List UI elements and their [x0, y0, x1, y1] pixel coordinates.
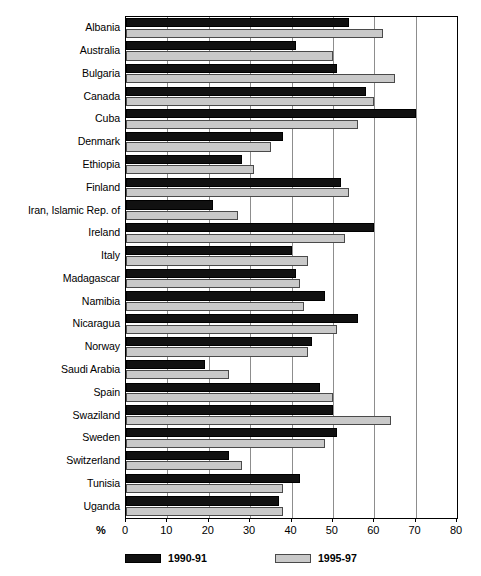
bar-1995-97	[126, 211, 238, 220]
bar-1990-91	[126, 360, 205, 369]
bar-row	[126, 85, 457, 108]
bar-row	[126, 176, 457, 199]
bar-row	[126, 404, 457, 427]
bar-row	[126, 268, 457, 291]
category-label-denmark: Denmark	[0, 135, 120, 147]
x-axis: 01020304050607080	[125, 518, 457, 538]
category-label-bulgaria: Bulgaria	[0, 67, 120, 79]
bar-1990-91	[126, 383, 320, 392]
category-label-ethiopia: Ethiopia	[0, 158, 120, 170]
bar-row	[126, 313, 457, 336]
legend-label-1995-97: 1995-97	[318, 552, 357, 564]
x-tick-label-10: 10	[160, 524, 172, 536]
bar-1995-97	[126, 188, 349, 197]
legend: 1990-91 1995-97	[115, 548, 445, 568]
category-label-italy: Italy	[0, 249, 120, 261]
bar-row	[126, 199, 457, 222]
x-tick-label-60: 60	[367, 524, 379, 536]
category-label-iran-islamic-rep-of: Iran, Islamic Rep. of	[0, 204, 120, 216]
bar-1995-97	[126, 29, 383, 38]
category-label-switzerland: Switzerland	[0, 454, 120, 466]
x-tick-label-20: 20	[202, 524, 214, 536]
x-tick-10	[166, 518, 167, 522]
bar-1990-91	[126, 178, 341, 187]
bar-1990-91	[126, 223, 374, 232]
bar-1995-97	[126, 256, 308, 265]
category-label-spain: Spain	[0, 386, 120, 398]
category-label-swaziland: Swaziland	[0, 409, 120, 421]
bar-1995-97	[126, 370, 229, 379]
bar-1990-91	[126, 314, 358, 323]
category-label-nicaragua: Nicaragua	[0, 317, 120, 329]
bar-row	[126, 381, 457, 404]
x-tick-0	[125, 518, 126, 522]
bar-1990-91	[126, 87, 366, 96]
legend-label-1990-91: 1990-91	[168, 552, 207, 564]
gray-swatch	[275, 554, 311, 563]
bar-row	[126, 359, 457, 382]
category-label-australia: Australia	[0, 44, 120, 56]
bar-1995-97	[126, 142, 271, 151]
bar-row	[126, 427, 457, 450]
bar-1990-91	[126, 109, 416, 118]
bar-1995-97	[126, 325, 337, 334]
bar-row	[126, 472, 457, 495]
bar-1990-91	[126, 291, 325, 300]
category-label-ireland: Ireland	[0, 226, 120, 238]
bar-1990-91	[126, 155, 242, 164]
bar-1990-91	[126, 496, 279, 505]
bar-1990-91	[126, 474, 300, 483]
bar-row	[126, 40, 457, 63]
bar-row	[126, 336, 457, 359]
bar-1990-91	[126, 41, 296, 50]
bar-1995-97	[126, 439, 325, 448]
x-tick-label-40: 40	[284, 524, 296, 536]
bar-1990-91	[126, 200, 213, 209]
category-label-tunisia: Tunisia	[0, 477, 120, 489]
bar-1995-97	[126, 507, 283, 516]
bar-1990-91	[126, 337, 312, 346]
x-tick-60	[373, 518, 374, 522]
bar-row	[126, 290, 457, 313]
category-label-finland: Finland	[0, 181, 120, 193]
bar-1990-91	[126, 451, 229, 460]
bar-row	[126, 17, 457, 40]
category-label-canada: Canada	[0, 90, 120, 102]
bar-1990-91	[126, 64, 337, 73]
black-swatch	[125, 554, 161, 563]
category-label-norway: Norway	[0, 340, 120, 352]
bar-1995-97	[126, 416, 391, 425]
bar-1995-97	[126, 165, 254, 174]
bar-1995-97	[126, 234, 345, 243]
x-tick-label-50: 50	[326, 524, 338, 536]
legend-item-1990-91: 1990-91	[125, 552, 207, 564]
bar-row	[126, 450, 457, 473]
bar-1995-97	[126, 393, 333, 402]
bar-1995-97	[126, 302, 304, 311]
x-tick-50	[332, 518, 333, 522]
category-label-uganda: Uganda	[0, 500, 120, 512]
bar-row	[126, 154, 457, 177]
bar-1995-97	[126, 120, 358, 129]
x-tick-70	[415, 518, 416, 522]
category-label-cuba: Cuba	[0, 112, 120, 124]
x-tick-40	[291, 518, 292, 522]
bar-1995-97	[126, 461, 242, 470]
legend-item-1995-97: 1995-97	[275, 552, 357, 564]
bar-1995-97	[126, 74, 395, 83]
bar-1995-97	[126, 347, 308, 356]
bar-rows	[126, 17, 457, 518]
bar-row	[126, 222, 457, 245]
bar-row	[126, 108, 457, 131]
category-label-madagascar: Madagascar	[0, 272, 120, 284]
bar-1990-91	[126, 405, 333, 414]
bar-1995-97	[126, 51, 333, 60]
bar-row	[126, 245, 457, 268]
bar-row	[126, 63, 457, 86]
bar-chart: AlbaniaAustraliaBulgariaCanadaCubaDenmar…	[0, 0, 481, 576]
bar-1995-97	[126, 97, 374, 106]
x-tick-80	[456, 518, 457, 522]
x-tick-20	[208, 518, 209, 522]
bar-1990-91	[126, 428, 337, 437]
category-label-sweden: Sweden	[0, 431, 120, 443]
